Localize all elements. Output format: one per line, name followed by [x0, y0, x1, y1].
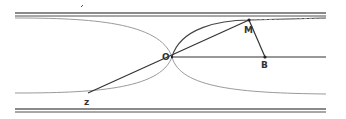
left-upper-curve [15, 18, 172, 57]
label-O: O [162, 52, 170, 62]
label-B: B [261, 60, 268, 70]
top-wall [15, 13, 326, 16]
point-B [263, 55, 266, 58]
geometry-diagram: O M B z [0, 0, 346, 119]
right-lower-curve [172, 57, 326, 94]
label-M: M [244, 25, 253, 35]
left-lower-curve [15, 57, 172, 93]
point-M [247, 18, 250, 21]
point-O [171, 56, 173, 58]
right-upper-curve [172, 18, 326, 57]
bottom-wall [15, 109, 326, 112]
label-Z: z [84, 97, 89, 107]
diagram-canvas: O M B z [0, 0, 346, 119]
tick-mark [81, 5, 83, 7]
